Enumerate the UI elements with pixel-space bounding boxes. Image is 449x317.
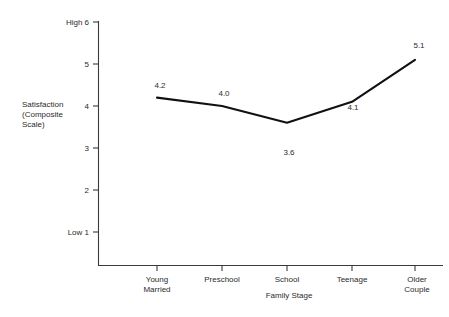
value-label-school: 3.6 — [283, 148, 295, 157]
y-axis-title-line-1: Satisfaction — [22, 100, 63, 109]
y-axis-title-line-2: (Composite — [22, 110, 63, 119]
value-label-preschool: 4.0 — [218, 89, 230, 98]
value-label-teenage: 4.1 — [347, 103, 359, 112]
y-tick-label-5: 5 — [85, 60, 90, 69]
x-category-label-young-married-line-1: Young — [146, 275, 168, 284]
y-tick-label-2: 2 — [85, 186, 90, 195]
data-series-line — [157, 60, 415, 123]
x-category-label-school: School — [275, 275, 300, 284]
value-label-young-married: 4.2 — [154, 81, 166, 90]
x-category-label-young-married-line-2: Married — [143, 285, 170, 294]
chart-canvas: High 6 5 4 3 2 Low 1 Satisfaction (Compo… — [0, 0, 449, 317]
satisfaction-family-stage-chart: High 6 5 4 3 2 Low 1 Satisfaction (Compo… — [0, 0, 449, 317]
x-category-label-older-couple-line-2: Couple — [404, 285, 430, 294]
y-tick-label-6: High 6 — [66, 18, 90, 27]
y-tick-label-4: 4 — [85, 102, 90, 111]
x-category-label-older-couple-line-1: Older — [407, 275, 427, 284]
x-category-label-preschool: Preschool — [204, 275, 240, 284]
value-label-older-couple: 5.1 — [413, 41, 425, 50]
y-tick-label-1: Low 1 — [68, 228, 90, 237]
y-axis-title-line-3: Scale) — [22, 120, 45, 129]
x-category-label-teenage: Teenage — [337, 275, 368, 284]
y-tick-label-3: 3 — [85, 144, 90, 153]
x-axis-title: Family Stage — [266, 291, 313, 300]
